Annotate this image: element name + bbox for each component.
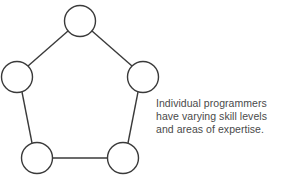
caption-line-1: Individual programmers [156, 97, 284, 110]
edges-group [22, 31, 138, 158]
edge-top-right [92, 31, 132, 66]
caption-text: Individual programmershave varying skill… [156, 97, 284, 136]
diagram-canvas: Individual programmershave varying skill… [0, 0, 284, 189]
node-network-graphic [0, 0, 284, 189]
caption-line-2: have varying skill levels [156, 110, 284, 123]
node-left [2, 62, 33, 93]
node-right [128, 62, 159, 93]
node-bottom-right [108, 143, 139, 174]
edge-top-left [28, 31, 68, 66]
caption-line-3: and areas of expertise. [156, 123, 284, 136]
edge-right-bottomright [128, 92, 138, 143]
node-bottom-left [22, 143, 53, 174]
edge-left-bottomleft [22, 92, 32, 143]
node-top [65, 6, 96, 37]
nodes-group [2, 6, 159, 174]
